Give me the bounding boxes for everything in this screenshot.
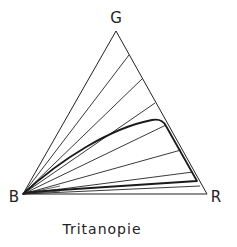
color-triangle-outline — [23, 31, 207, 194]
confusion-lines — [23, 55, 200, 194]
vertex-label-r: R — [211, 188, 221, 206]
confusion-line-2 — [23, 78, 143, 194]
vertex-label-b: B — [9, 188, 19, 206]
vertex-label-g: G — [110, 9, 122, 27]
diagram-caption: Tritanopie — [61, 221, 141, 237]
tritanopia-triangle-diagram: G B R Tritanopie — [0, 0, 237, 247]
confusion-line-3 — [23, 103, 155, 194]
confusion-line-1 — [23, 55, 129, 194]
